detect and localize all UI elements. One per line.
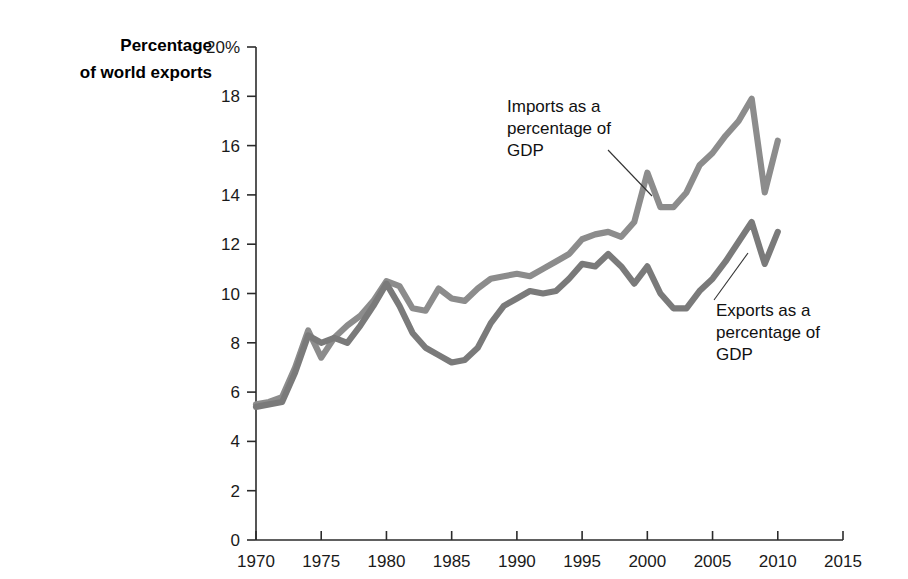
- x-tick-label: 2015: [824, 552, 862, 571]
- y-tick-label: 20%: [206, 38, 240, 57]
- y-tick-label: 10: [221, 285, 240, 304]
- x-axis-ticks: 1970197519801985199019952000200520102015: [237, 531, 862, 571]
- y-tick-label: 16: [221, 137, 240, 156]
- line-chart-plot: 02468101214161820% 197019751980198519901…: [0, 0, 908, 579]
- x-tick-label: 1990: [498, 552, 536, 571]
- x-tick-label: 1995: [563, 552, 601, 571]
- annotation-line: GDP: [716, 345, 753, 364]
- annotation-line: percentage of: [507, 119, 611, 138]
- y-tick-label: 0: [231, 531, 240, 550]
- annotation-line: Exports as a: [716, 301, 811, 320]
- x-tick-label: 2010: [759, 552, 797, 571]
- y-tick-label: 4: [231, 432, 240, 451]
- chart-figure: Percentage of world exports 024681012141…: [0, 0, 908, 579]
- x-tick-label: 1970: [237, 552, 275, 571]
- y-tick-label: 8: [231, 334, 240, 353]
- leader-line-exports: [714, 253, 748, 300]
- y-tick-label: 2: [231, 482, 240, 501]
- x-tick-label: 1980: [368, 552, 406, 571]
- annotations-group: Imports as apercentage ofGDPExports as a…: [507, 97, 820, 364]
- annotation-line: percentage of: [716, 323, 820, 342]
- annotation-line: GDP: [507, 141, 544, 160]
- series-line-exports: [256, 222, 778, 407]
- x-tick-label: 1985: [433, 552, 471, 571]
- x-tick-label: 2000: [628, 552, 666, 571]
- y-tick-label: 18: [221, 87, 240, 106]
- annotation-line: Imports as a: [507, 97, 601, 116]
- y-tick-label: 6: [231, 383, 240, 402]
- y-tick-label: 12: [221, 235, 240, 254]
- annotation-imports: Imports as apercentage ofGDP: [507, 97, 611, 160]
- y-axis-ticks: 02468101214161820%: [206, 38, 256, 550]
- annotation-exports: Exports as apercentage ofGDP: [716, 301, 820, 364]
- y-tick-label: 14: [221, 186, 240, 205]
- x-tick-label: 1975: [302, 552, 340, 571]
- x-tick-label: 2005: [694, 552, 732, 571]
